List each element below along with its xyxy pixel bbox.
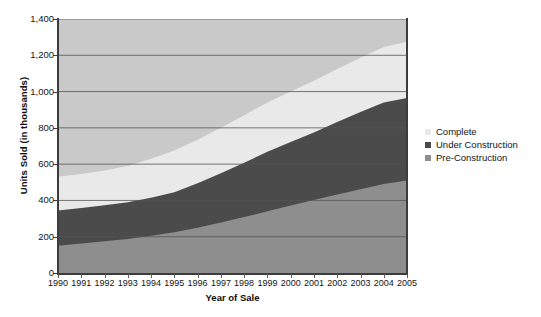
x-tick-mark	[105, 274, 106, 278]
x-tick-mark	[361, 274, 362, 278]
y-axis-line	[57, 18, 59, 274]
y-tick-mark	[53, 92, 58, 93]
y-tick-mark	[53, 200, 58, 201]
x-tick-mark	[244, 274, 245, 278]
y-tick-mark	[53, 55, 58, 56]
y-tick-mark	[53, 19, 58, 20]
plot-right-border	[406, 18, 408, 274]
x-axis-title: Year of Sale	[58, 292, 407, 303]
x-tick-mark	[221, 274, 222, 278]
y-tick-label: 0	[8, 268, 54, 278]
legend-swatch-icon	[425, 142, 431, 148]
y-axis-tick-labels: 02004006008001,0001,2001,400	[4, 0, 54, 317]
legend-swatch-icon	[425, 129, 431, 135]
x-tick-mark	[291, 274, 292, 278]
x-tick-mark	[198, 274, 199, 278]
y-tick-label: 400	[8, 195, 54, 205]
legend-item-complete[interactable]: Complete	[425, 126, 537, 138]
legend-item-pre-construction[interactable]: Pre-Construction	[425, 152, 537, 164]
x-tick-mark	[151, 274, 152, 278]
x-axis-tick-labels: 1990199119921993199419951996199719981999…	[58, 278, 407, 292]
y-tick-label: 800	[8, 123, 54, 133]
legend-label: Pre-Construction	[436, 153, 507, 163]
y-tick-label: 200	[8, 232, 54, 242]
y-tick-mark	[53, 237, 58, 238]
y-tick-mark	[53, 164, 58, 165]
y-tick-label: 1,000	[8, 87, 54, 97]
chart-legend: CompleteUnder ConstructionPre-Constructi…	[425, 126, 537, 165]
x-axis-line	[57, 273, 408, 275]
x-tick-mark	[384, 274, 385, 278]
x-tick-mark	[58, 274, 59, 278]
plot-area	[58, 19, 407, 273]
x-tick-mark	[81, 274, 82, 278]
x-tick-mark	[314, 274, 315, 278]
y-tick-label: 1,400	[8, 14, 54, 24]
y-tick-label: 600	[8, 159, 54, 169]
x-tick-mark	[337, 274, 338, 278]
y-tick-label: 1,200	[8, 50, 54, 60]
x-tick-mark	[407, 274, 408, 278]
x-tick-mark	[128, 274, 129, 278]
x-tick-label: 2005	[390, 278, 424, 288]
legend-item-under-construction[interactable]: Under Construction	[425, 139, 537, 151]
area-chart: Units Sold (in thousands) 02004006008001…	[0, 0, 541, 317]
x-tick-mark	[267, 274, 268, 278]
legend-label: Complete	[436, 127, 477, 137]
x-tick-mark	[174, 274, 175, 278]
legend-swatch-icon	[425, 155, 431, 161]
y-tick-mark	[53, 128, 58, 129]
stacked-area-series	[58, 19, 407, 273]
legend-label: Under Construction	[436, 140, 518, 150]
